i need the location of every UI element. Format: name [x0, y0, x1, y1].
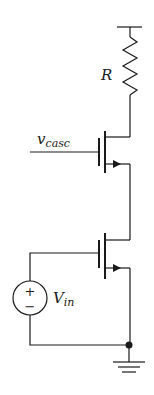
- ground: [113, 342, 145, 373]
- resistor-label: R: [100, 66, 112, 84]
- cascode-schematic: R vcasc + − Vin: [0, 0, 154, 395]
- vin-label: Vin: [53, 289, 74, 309]
- plus-sign: +: [25, 284, 36, 299]
- voltage-source: + − Vin: [13, 281, 130, 345]
- source-arrow-icon: [113, 160, 121, 168]
- minus-sign: −: [25, 299, 36, 314]
- source-arrow-icon: [113, 264, 121, 272]
- supply-rail: [117, 27, 142, 37]
- resistor: R: [100, 37, 137, 137]
- cascode-transistor: vcasc: [30, 130, 130, 240]
- vcasc-label: vcasc: [37, 130, 70, 150]
